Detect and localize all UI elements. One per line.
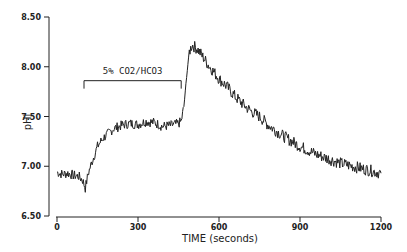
x-tick-label: 300 — [130, 223, 147, 232]
chart: 6.507.007.508.008.50 03006009001200 pHi … — [0, 0, 407, 252]
y-tick-label: 6.50 — [21, 212, 41, 221]
x-ticks: 03006009001200 — [54, 217, 392, 232]
y-tick-label: 8.00 — [21, 63, 41, 72]
x-tick-label: 900 — [292, 223, 309, 232]
ph-trace-line — [57, 41, 381, 192]
x-axis-title: TIME (seconds) — [181, 233, 258, 244]
x-tick-label: 0 — [54, 223, 60, 232]
y-axis-title: pHi — [22, 114, 33, 131]
treatment-bracket — [84, 81, 181, 89]
x-tick-label: 600 — [211, 223, 228, 232]
x-tick-label: 1200 — [370, 223, 393, 232]
y-tick-label: 7.00 — [21, 162, 41, 171]
y-tick-label: 8.50 — [21, 13, 41, 22]
annotations: 5% CO2/HCO3 — [84, 66, 181, 89]
treatment-label: 5% CO2/HCO3 — [103, 66, 163, 76]
axes — [49, 17, 381, 217]
